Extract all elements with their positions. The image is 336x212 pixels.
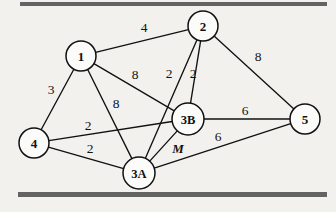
edge-2-5 [214,36,294,109]
horizontal-rules [18,2,327,197]
node-2[interactable]: 2 [188,11,218,41]
edge-weight-1-4: 3 [48,82,55,97]
edge-weight-3A-3B: M [171,141,184,156]
edge-weight-3B-5: 6 [242,103,249,118]
node-5[interactable]: 5 [290,104,320,134]
edge-weight-4-3B: 2 [85,118,92,133]
node-1[interactable]: 1 [66,41,96,71]
node-4[interactable]: 4 [19,128,49,158]
graph-figure: 123A3B45 438822822M66 [0,0,336,212]
graph-canvas: 123A3B45 438822822M66 [0,0,336,212]
edge-weight-labels: 438822822M66 [48,20,262,156]
node-label-3B: 3B [181,113,196,127]
node-label-1: 1 [78,49,85,64]
node-label-5: 5 [302,112,309,127]
edge-weight-2-5: 8 [255,49,262,64]
node-label-3A: 3A [131,167,146,181]
edge-weight-2-3B: 2 [190,66,197,81]
edge-weight-4-3A: 2 [87,141,94,156]
top-rule [20,2,327,6]
edge-weight-3A-5: 6 [215,129,222,144]
edge-weight-1-3B: 8 [132,67,139,82]
edge-weight-1-3A: 8 [113,96,120,111]
edge-1-4 [41,69,74,130]
bottom-rule [18,192,327,197]
node-3A[interactable]: 3A [123,157,155,189]
node-label-2: 2 [200,19,207,34]
graph-nodes: 123A3B45 [19,11,320,189]
edge-weight-1-2: 4 [141,20,148,35]
node-3B[interactable]: 3B [172,103,204,135]
node-label-4: 4 [31,136,38,151]
edge-weight-2-3A: 2 [166,66,173,81]
